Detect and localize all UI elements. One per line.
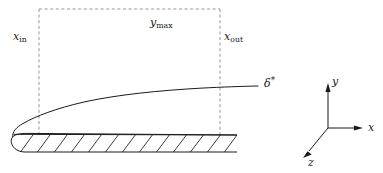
z-axis-label: z [308,157,314,168]
inlet-label-subscript: in [19,35,27,44]
coordinate-axes-triad [303,83,363,158]
displacement-thickness-label: δ* [264,78,275,89]
outlet-position-label: xout [224,31,243,42]
domain-height-label-subscript: max [156,21,172,30]
domain-height-label: ymax [150,17,173,28]
inlet-position-label: xin [13,31,27,42]
delta-label-superscript: * [271,75,275,85]
y-axis-label: y [332,76,338,87]
outlet-label-subscript: out [230,35,243,44]
x-axis-label: x [368,122,374,133]
boundary-layer-figure: xin ymax xout δ* y x z [0,0,383,173]
figure-canvas [0,0,383,173]
domain-box [39,9,220,135]
plate-hatching [21,134,238,152]
delta-label-base: δ [264,77,271,90]
z-axis-line [309,128,328,151]
x-axis-arrowhead [354,125,363,130]
y-axis-arrowhead [325,83,330,92]
displacement-thickness-curve [13,86,258,137]
